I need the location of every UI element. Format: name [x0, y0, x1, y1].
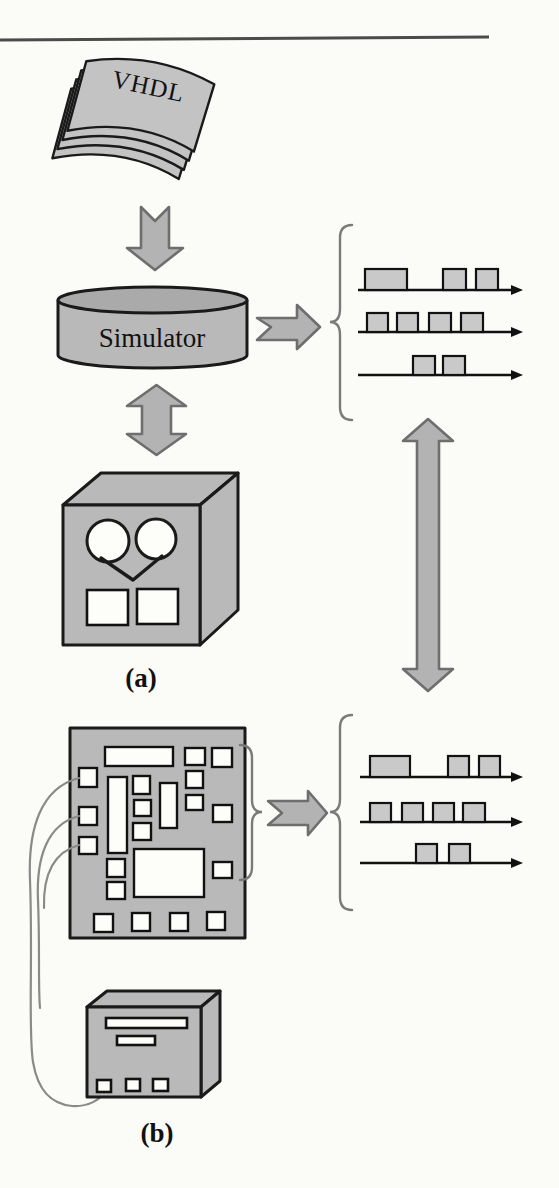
vhdl-document-stack-icon: VHDL	[52, 46, 216, 188]
down-arrow-icon	[127, 207, 183, 270]
waveform-track	[360, 803, 523, 827]
signal-pulse	[365, 269, 407, 290]
signal-pulse	[429, 313, 451, 332]
simulated-waveforms	[358, 269, 523, 380]
measured-waveforms	[360, 756, 523, 868]
part-a-label: (a)	[125, 663, 156, 693]
signal-pulse	[416, 844, 437, 863]
signal-pulse	[443, 269, 466, 290]
signal-pulse	[463, 803, 485, 822]
signal-pulse	[479, 756, 500, 777]
tape-computer-icon	[63, 473, 238, 645]
signal-pulse	[370, 803, 391, 822]
right-arrow-bottom-icon	[268, 791, 327, 835]
signal-pulse	[449, 844, 470, 863]
waveform-track	[358, 356, 523, 380]
brace-top-icon	[330, 225, 352, 420]
brace-bottom-icon	[330, 715, 352, 910]
diagram-canvas: VHDL Simulator (a)	[0, 0, 559, 1188]
signal-pulse	[367, 313, 388, 332]
signal-pulse	[370, 756, 410, 777]
signal-pulse	[476, 269, 498, 290]
top-rule	[0, 37, 489, 40]
signal-pulse	[443, 356, 465, 375]
signal-pulse	[433, 803, 454, 822]
signal-pulse	[402, 803, 423, 822]
simulator-label: Simulator	[99, 323, 206, 353]
signal-pulse	[397, 313, 418, 332]
vertical-double-arrow-small-icon	[127, 385, 186, 455]
waveform-track	[358, 313, 523, 337]
signal-pulse	[413, 356, 435, 375]
waveform-track	[360, 844, 523, 868]
test-instrument-icon	[87, 991, 220, 1097]
figure-page: VHDL Simulator (a)	[0, 0, 559, 1188]
part-b-label: (b)	[141, 1118, 174, 1148]
circuit-board-icon	[70, 728, 245, 938]
right-arrow-top-icon	[257, 305, 320, 349]
vertical-double-arrow-large-icon	[403, 419, 453, 691]
simulator-icon: Simulator	[58, 287, 247, 368]
waveform-track	[360, 756, 523, 782]
waveform-track	[358, 269, 523, 295]
signal-pulse	[461, 313, 483, 332]
signal-pulse	[448, 756, 469, 777]
